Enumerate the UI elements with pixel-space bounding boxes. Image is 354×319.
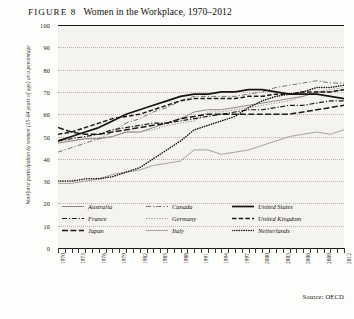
- y-tick-label: 90: [43, 44, 50, 51]
- x-tick: [330, 248, 331, 253]
- x-tick-label: 1970: [60, 253, 66, 264]
- x-tick-label: 1973: [80, 253, 86, 264]
- legend-label: Canada: [172, 203, 193, 210]
- legend-label: France: [88, 215, 107, 222]
- x-tick: [283, 248, 284, 253]
- x-tick-label: 1985: [162, 253, 168, 264]
- x-tick: [242, 248, 243, 253]
- x-tick: [174, 248, 175, 253]
- x-tick: [290, 248, 291, 253]
- x-tick-label: 2012: [346, 253, 352, 264]
- legend-item-france[interactable]: France: [62, 215, 146, 222]
- x-axis-tick-labels: 1970197319761979198219851988199119941997…: [58, 253, 344, 293]
- x-tick: [72, 248, 73, 253]
- legend-swatch-united-states: [232, 203, 254, 210]
- x-tick-label: 1997: [244, 253, 250, 264]
- x-tick: [58, 248, 59, 253]
- x-tick-label: 1976: [101, 253, 107, 264]
- x-tick: [167, 248, 168, 253]
- figure-page: FIGURE 8Women in the Workplace, 1970–201…: [0, 0, 354, 319]
- x-tick: [296, 248, 297, 253]
- legend-swatch-italy: [146, 227, 168, 234]
- x-tick: [221, 248, 222, 253]
- legend-item-canada[interactable]: Canada: [146, 203, 232, 210]
- series-line-germany: [58, 87, 344, 141]
- x-tick: [235, 248, 236, 253]
- x-tick: [140, 248, 141, 253]
- chart-legend: AustraliaCanadaUnited StatesFranceGerman…: [62, 200, 334, 240]
- legend-item-united-kingdom[interactable]: United Kingdom: [232, 215, 332, 222]
- legend-item-germany[interactable]: Germany: [146, 215, 232, 222]
- x-tick-label: 1991: [203, 253, 209, 264]
- legend-item-italy[interactable]: Italy: [146, 227, 232, 234]
- x-tick: [276, 248, 277, 253]
- legend-label: United Kingdom: [258, 215, 301, 222]
- x-tick: [160, 248, 161, 253]
- legend-swatch-germany: [146, 215, 168, 222]
- legend-item-australia[interactable]: Australia: [62, 203, 146, 210]
- x-tick: [85, 248, 86, 253]
- x-tick: [78, 248, 79, 253]
- legend-label: Germany: [172, 215, 196, 222]
- x-tick: [249, 248, 250, 253]
- x-tick: [324, 248, 325, 253]
- figure-title-text: Women in the Workplace, 1970–2012: [83, 6, 231, 17]
- y-tick-label: 10: [43, 222, 50, 229]
- x-tick: [133, 248, 134, 253]
- x-tick-label: 2009: [326, 253, 332, 264]
- y-tick-label: 50: [43, 133, 50, 140]
- x-tick: [262, 248, 263, 253]
- x-tick-label: 2006: [305, 253, 311, 264]
- x-tick-label: 1982: [142, 253, 148, 264]
- x-tick-label: 2003: [285, 253, 291, 264]
- x-tick: [215, 248, 216, 253]
- legend-item-japan[interactable]: Japan: [62, 227, 146, 234]
- legend-label: Australia: [88, 203, 112, 210]
- x-tick: [194, 248, 195, 253]
- y-tick-label: 60: [43, 111, 50, 118]
- x-tick: [201, 248, 202, 253]
- legend-swatch-netherlands: [232, 227, 254, 234]
- y-axis-tick-labels: 1009080706050403020100: [0, 0, 56, 248]
- x-tick: [181, 248, 182, 253]
- y-tick-label: 70: [43, 88, 50, 95]
- x-tick: [92, 248, 93, 253]
- x-tick: [310, 248, 311, 253]
- legend-label: Italy: [172, 227, 184, 234]
- y-tick-label: 0: [47, 245, 50, 252]
- x-tick: [187, 248, 188, 253]
- x-tick-label: 1988: [183, 253, 189, 264]
- x-tick: [344, 248, 345, 253]
- x-tick: [119, 248, 120, 253]
- legend-swatch-united-kingdom: [232, 215, 254, 222]
- x-tick: [303, 248, 304, 253]
- y-tick-label: 20: [43, 200, 50, 207]
- x-tick: [65, 248, 66, 253]
- series-line-japan: [58, 105, 344, 134]
- legend-item-netherlands[interactable]: Netherlands: [232, 227, 332, 234]
- figure-title: FIGURE 8Women in the Workplace, 1970–201…: [28, 6, 348, 17]
- legend-swatch-france: [62, 215, 84, 222]
- y-tick-label: 30: [43, 178, 50, 185]
- x-tick-label: 1994: [223, 253, 229, 264]
- x-tick: [337, 248, 338, 253]
- x-tick-label: 1979: [121, 253, 127, 264]
- x-tick: [317, 248, 318, 253]
- x-tick: [147, 248, 148, 253]
- x-tick: [255, 248, 256, 253]
- x-tick: [99, 248, 100, 253]
- legend-label: Japan: [88, 227, 104, 234]
- x-tick: [208, 248, 209, 253]
- legend-swatch-japan: [62, 227, 84, 234]
- legend-swatch-australia: [62, 203, 84, 210]
- x-tick: [153, 248, 154, 253]
- y-tick-label: 80: [43, 66, 50, 73]
- y-tick-label: 100: [40, 22, 50, 29]
- x-tick: [112, 248, 113, 253]
- x-tick-label: 2000: [264, 253, 270, 264]
- legend-item-united-states[interactable]: United States: [232, 203, 332, 210]
- x-tick: [126, 248, 127, 253]
- y-tick-label: 40: [43, 155, 50, 162]
- legend-swatch-canada: [146, 203, 168, 210]
- x-tick: [269, 248, 270, 253]
